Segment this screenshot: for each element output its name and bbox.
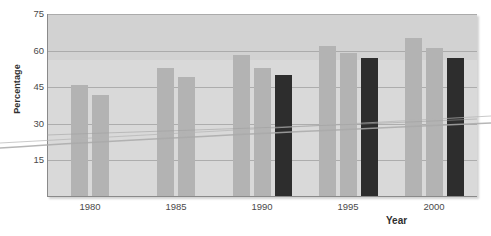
y-axis-tick-30: 30 xyxy=(20,119,44,129)
bar-1985-2 xyxy=(178,77,195,197)
bar-2000-1 xyxy=(405,38,422,197)
x-axis-title: Year xyxy=(386,215,407,226)
bar-1985-1 xyxy=(157,68,174,197)
x-axis-tick-2000: 2000 xyxy=(404,201,464,212)
bar-1995-1 xyxy=(319,46,336,197)
y-axis-tick-labels: 1530456075 xyxy=(16,0,44,236)
bar-2000-2 xyxy=(426,48,443,197)
y-axis-line xyxy=(47,14,48,197)
y-axis-tick-45: 45 xyxy=(20,82,44,92)
bar-1995-3 xyxy=(361,58,378,197)
x-axis-line xyxy=(47,196,477,197)
bar-1990-1 xyxy=(233,55,250,197)
y-axis-tick-60: 60 xyxy=(20,46,44,56)
plot-area xyxy=(47,14,477,197)
x-axis-tick-1985: 1985 xyxy=(146,201,206,212)
x-axis-tick-1980: 1980 xyxy=(60,201,120,212)
bar-1990-2 xyxy=(254,68,271,197)
bar-1980-1 xyxy=(71,85,88,197)
bar-2000-3 xyxy=(447,58,464,197)
bar-1990-3 xyxy=(275,75,292,197)
x-axis-tick-1990: 1990 xyxy=(232,201,292,212)
bar-1995-2 xyxy=(340,53,357,197)
bar-chart: Percentage Year 1530456075 1980198519901… xyxy=(0,0,491,236)
bar-1980-2 xyxy=(92,95,109,197)
y-axis-tick-15: 15 xyxy=(20,155,44,165)
y-axis-tick-75: 75 xyxy=(20,9,44,19)
gridline-75 xyxy=(47,14,477,15)
x-axis-tick-1995: 1995 xyxy=(318,201,378,212)
